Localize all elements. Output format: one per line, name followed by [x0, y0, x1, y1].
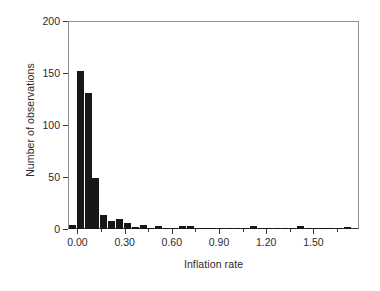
x-axis-title: Inflation rate: [68, 258, 359, 270]
x-axis-tick-label: 0.90: [209, 236, 229, 248]
x-axis-tick-mark: [313, 229, 314, 234]
x-axis-tick-mark: [172, 229, 173, 234]
histogram-figure: 050100150200 0.000.300.600.901.201.50 Nu…: [0, 0, 380, 291]
x-axis-ticks: 0.000.300.600.901.201.50: [0, 0, 380, 291]
x-axis-tick-label: 0.00: [67, 236, 87, 248]
x-axis-tick-label: 0.60: [162, 236, 182, 248]
x-axis-minor-tick-mark: [195, 229, 196, 232]
x-axis-minor-tick-mark: [290, 229, 291, 232]
x-axis-tick-mark: [125, 229, 126, 234]
x-axis-minor-tick-mark: [243, 229, 244, 232]
x-axis-tick-label: 1.50: [303, 236, 323, 248]
x-axis-minor-tick-mark: [101, 229, 102, 232]
x-axis-tick-label: 1.20: [256, 236, 276, 248]
y-axis-title: Number of observations: [22, 0, 38, 240]
x-axis-minor-tick-mark: [148, 229, 149, 232]
x-axis-tick-label: 0.30: [114, 236, 134, 248]
x-axis-tick-mark: [266, 229, 267, 234]
x-axis-tick-mark: [77, 229, 78, 234]
x-axis-tick-mark: [219, 229, 220, 234]
x-axis-minor-tick-mark: [337, 229, 338, 232]
